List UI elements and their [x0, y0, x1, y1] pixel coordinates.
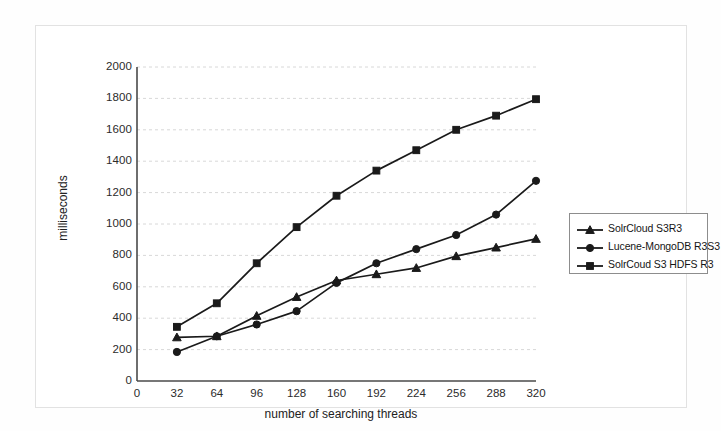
- data-point-marker: [173, 348, 180, 355]
- chart-legend: SolrCloud S3R3Lucene-MongoDB R3S3SolrCou…: [569, 213, 708, 274]
- x-axis-tick-label: 192: [356, 388, 396, 400]
- data-point-marker: [293, 308, 300, 315]
- legend-item-label: SolrCloud S3R3: [608, 222, 682, 234]
- data-point-marker: [453, 231, 460, 238]
- data-point-marker: [493, 211, 500, 218]
- chart-frame: milliseconds 020040060080010001200140016…: [35, 25, 687, 408]
- data-point-marker: [532, 177, 539, 184]
- legend-item-3[interactable]: SolrCoud S3 HDFS R3: [576, 255, 707, 272]
- gridlines: [137, 67, 536, 350]
- x-axis-tick-label: 256: [436, 388, 476, 400]
- data-point-marker: [333, 279, 340, 286]
- data-point-marker: [413, 246, 420, 253]
- x-axis-tick-labels: 0326496128160192224256288320: [137, 388, 536, 406]
- legend-item-1[interactable]: SolrCloud S3R3: [576, 219, 707, 236]
- y-axis-tick-label: 0: [76, 375, 132, 387]
- plot-svg: [137, 67, 536, 381]
- y-axis-tick-labels: 0200400600800100012001400160018002000: [72, 67, 132, 381]
- x-axis-tick-label: 96: [237, 388, 277, 400]
- legend-item-label: SolrCoud S3 HDFS R3: [608, 258, 713, 270]
- y-axis-tick-label: 600: [76, 281, 132, 293]
- y-axis-tick-label: 200: [76, 344, 132, 356]
- y-axis-tick-label: 800: [76, 249, 132, 261]
- series-1: [173, 235, 541, 341]
- x-axis-tick-label: 224: [396, 388, 436, 400]
- y-axis-title: milliseconds: [56, 163, 70, 253]
- y-axis-tick-label: 1800: [76, 92, 132, 104]
- y-axis-tick-label: 1600: [76, 124, 132, 136]
- legend-item-label: Lucene-MongoDB R3S3: [608, 240, 720, 252]
- x-axis-tick-label: 0: [117, 388, 157, 400]
- y-axis-tick-label: 2000: [76, 61, 132, 73]
- data-point-marker: [213, 300, 220, 307]
- data-point-marker: [252, 312, 261, 320]
- data-point-marker: [213, 333, 220, 340]
- y-axis-tick-label: 1000: [76, 218, 132, 230]
- series-line: [177, 181, 536, 352]
- series-2: [173, 177, 539, 355]
- data-point-marker: [333, 192, 340, 199]
- data-point-marker: [493, 112, 500, 119]
- x-axis-tick-label: 288: [476, 388, 516, 400]
- legend-marker: [587, 262, 594, 269]
- x-axis-tick-label: 128: [277, 388, 317, 400]
- data-point-marker: [293, 224, 300, 231]
- y-axis-tick-label: 400: [76, 312, 132, 324]
- triangle-marker: [576, 222, 604, 234]
- x-axis-tick-label: 160: [317, 388, 357, 400]
- data-point-marker: [253, 260, 260, 267]
- x-axis-tick-label: 64: [197, 388, 237, 400]
- legend-item-2[interactable]: Lucene-MongoDB R3S3: [576, 237, 707, 254]
- x-axis-tick-label: 32: [157, 388, 197, 400]
- x-axis-title: number of searching threads: [196, 407, 486, 421]
- data-point-marker: [253, 321, 260, 328]
- circle-marker: [576, 240, 604, 252]
- data-point-marker: [533, 96, 540, 103]
- series-line: [177, 99, 536, 327]
- data-point-marker: [413, 147, 420, 154]
- data-point-marker: [373, 260, 380, 267]
- chart-page: milliseconds 020040060080010001200140016…: [0, 0, 721, 431]
- square-marker: [576, 258, 604, 270]
- legend-marker: [586, 244, 593, 251]
- x-axis-tick-label: 320: [516, 388, 556, 400]
- data-point-marker: [532, 235, 541, 243]
- series-3: [174, 96, 540, 330]
- data-point-marker: [373, 167, 380, 174]
- data-point-marker: [174, 323, 181, 330]
- plot-area: [137, 67, 536, 381]
- data-point-marker: [453, 126, 460, 133]
- y-axis-tick-label: 1400: [76, 155, 132, 167]
- y-axis-tick-label: 1200: [76, 187, 132, 199]
